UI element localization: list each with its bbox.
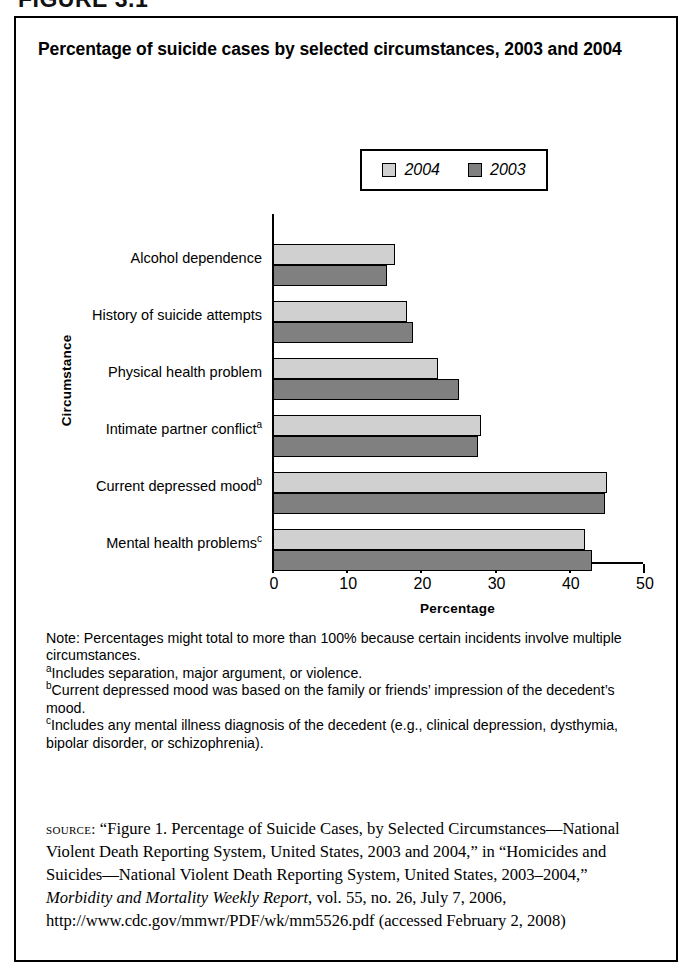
x-axis-tick — [643, 564, 645, 573]
legend-swatch-2004 — [382, 163, 396, 177]
y-axis-category-label: History of suicide attempts — [46, 307, 262, 323]
x-axis-tick-label: 10 — [328, 575, 368, 593]
y-axis-category-label: Intimate partner conflicta — [46, 421, 262, 437]
source-publication-title: Morbidity and Mortality Weekly Report — [46, 888, 308, 907]
y-axis-category-label: Current depressed moodb — [46, 478, 262, 494]
footnote-a-text: Includes separation, major argument, or … — [52, 665, 363, 681]
x-axis-tick-label: 30 — [477, 575, 517, 593]
bar-2004 — [273, 301, 407, 322]
source-citation: source: “Figure 1. Percentage of Suicide… — [46, 818, 654, 932]
bar-2004 — [273, 529, 585, 550]
category-footnote-marker: a — [256, 419, 262, 430]
x-axis-tick-label: 20 — [402, 575, 442, 593]
figure-number: FIGURE 3.1 — [18, 0, 148, 14]
bar-2004 — [273, 244, 395, 265]
chart-legend: 2004 2003 — [360, 149, 548, 191]
x-axis-tick-label: 0 — [254, 575, 294, 593]
y-axis-category-label: Alcohol dependence — [46, 250, 262, 266]
y-axis-category-label: Mental health problemsc — [46, 535, 262, 551]
bar-2003 — [273, 550, 592, 571]
legend-label-2003: 2003 — [490, 161, 526, 179]
y-axis-category-label: Physical health problem — [46, 364, 262, 380]
bar-2004 — [273, 472, 607, 493]
bar-2003 — [273, 493, 605, 514]
legend-swatch-2003 — [468, 163, 482, 177]
bar-2003 — [273, 322, 413, 343]
figure-container: Percentage of suicide cases by selected … — [14, 16, 678, 962]
category-footnote-marker: c — [257, 533, 262, 544]
note-line: Note: Percentages might total to more th… — [46, 630, 650, 665]
footnote-b: bCurrent depressed mood was based on the… — [46, 682, 650, 717]
bar-2003 — [273, 265, 387, 286]
footnote-c-text: Includes any mental illness diagnosis of… — [46, 717, 618, 750]
bar-2004 — [273, 358, 438, 379]
bar-2003 — [273, 379, 459, 400]
source-label: source: — [46, 821, 96, 837]
category-footnote-marker: b — [256, 476, 262, 487]
chart-notes: Note: Percentages might total to more th… — [46, 630, 650, 752]
legend-item-2004: 2004 — [382, 161, 440, 179]
x-axis-tick-label: 40 — [551, 575, 591, 593]
x-axis-title: Percentage — [272, 601, 643, 616]
bar-2003 — [273, 436, 478, 457]
y-axis-tick-labels: Alcohol dependenceHistory of suicide att… — [46, 216, 262, 558]
x-axis-tick-label: 50 — [625, 575, 665, 593]
footnote-b-text: Current depressed mood was based on the … — [46, 682, 615, 715]
footnote-c: cIncludes any mental illness diagnosis o… — [46, 717, 650, 752]
source-text-part1: “Figure 1. Percentage of Suicide Cases, … — [46, 819, 620, 884]
legend-label-2004: 2004 — [404, 161, 440, 179]
bar-2004 — [273, 415, 481, 436]
footnote-a: aIncludes separation, major argument, or… — [46, 665, 650, 682]
legend-item-2003: 2003 — [468, 161, 526, 179]
bar-series-group — [273, 214, 653, 562]
